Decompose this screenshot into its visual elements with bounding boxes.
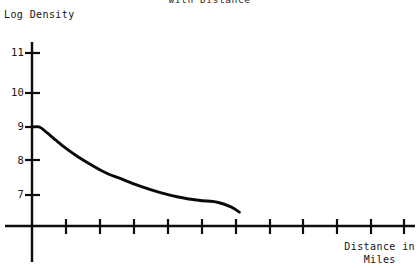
- data-series-line: [32, 127, 239, 213]
- chart-page: with Distance Log Density Distance in Mi…: [0, 0, 419, 268]
- plot-area: [0, 0, 419, 268]
